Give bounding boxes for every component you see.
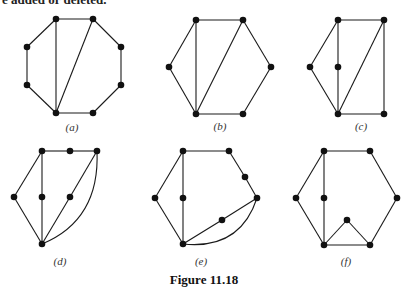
graph-edge (169, 20, 196, 67)
graph-vertex (53, 110, 60, 117)
graph-edge (27, 85, 56, 113)
graph-edge (196, 20, 243, 114)
graph-panel-c: (c) (307, 17, 388, 133)
graph-panels: (a)(b)(c)(d)(e)(f) (11, 16, 401, 268)
graph-vertex (193, 111, 200, 118)
graph-vertex (254, 195, 261, 202)
graph-vertex (118, 44, 125, 51)
graph-edge (370, 198, 397, 245)
graph-edge (347, 220, 370, 245)
panel-label-c: (c) (355, 120, 368, 133)
graph-vertex (118, 82, 125, 89)
graph-panel-d: (d) (11, 148, 101, 268)
graph-vertex (367, 148, 374, 155)
figure-caption: Figure 11.18 (170, 272, 239, 287)
graph-vertex (381, 17, 388, 24)
graph-vertex (90, 110, 97, 117)
graph-panel-f: (f) (293, 148, 401, 268)
graph-panel-e: (e) (152, 148, 261, 268)
panel-label-b: (b) (214, 120, 227, 133)
graph-vertex (11, 194, 18, 201)
graph-edge (183, 220, 222, 244)
graph-vertex (39, 148, 46, 155)
graph-edge (245, 177, 257, 198)
graph-vertex (242, 174, 249, 181)
graph-vertex (24, 82, 31, 89)
graph-edge (56, 19, 93, 113)
graph-vertex (219, 217, 226, 224)
graph-edge (155, 198, 183, 244)
graph-vertex (335, 111, 342, 118)
graph-vertex (240, 111, 247, 118)
graph-edge (229, 151, 245, 177)
graph-vertex (94, 148, 101, 155)
graph-edge (169, 67, 196, 114)
graph-edge (93, 19, 121, 47)
graph-vertex (180, 195, 187, 202)
graph-vertex (321, 195, 328, 202)
graph-vertex (166, 64, 173, 71)
graph-vertex (39, 194, 46, 201)
graph-edge (27, 19, 56, 47)
graph-vertex (335, 17, 342, 24)
graph-vertex (321, 242, 328, 249)
panel-label-f: (f) (341, 255, 352, 268)
graph-edge (296, 151, 324, 198)
graph-edge (93, 85, 121, 113)
graph-vertex (394, 195, 401, 202)
graph-edge (296, 198, 324, 245)
graph-edge (222, 198, 257, 220)
graph-edge (14, 197, 42, 244)
graph-edge (243, 20, 271, 67)
graph-panel-b: (b) (166, 17, 275, 133)
graph-vertex (268, 64, 275, 71)
graph-vertex (344, 217, 351, 224)
graph-vertex (67, 194, 74, 201)
graph-edge (310, 20, 338, 67)
panel-label-e: (e) (195, 255, 208, 268)
graph-edge (155, 151, 183, 198)
graph-vertex (240, 17, 247, 24)
panel-label-a: (a) (66, 121, 79, 134)
graph-vertex (180, 148, 187, 155)
graph-figure: (a)(b)(c)(d)(e)(f) Figure 11.18 (0, 0, 414, 291)
graph-vertex (180, 241, 187, 248)
graph-vertex (53, 16, 60, 23)
graph-vertex (193, 17, 200, 24)
graph-vertex (335, 64, 342, 71)
graph-panel-a: (a) (24, 16, 125, 134)
graph-vertex (152, 195, 159, 202)
graph-vertex (90, 16, 97, 23)
graph-edge (324, 220, 347, 245)
graph-vertex (367, 242, 374, 249)
graph-edge (338, 20, 384, 114)
graph-vertex (226, 148, 233, 155)
graph-vertex (293, 195, 300, 202)
graph-edge (14, 151, 42, 197)
graph-vertex (39, 241, 46, 248)
graph-vertex (381, 111, 388, 118)
graph-edge (310, 67, 338, 114)
graph-vertex (307, 64, 314, 71)
graph-edge (370, 151, 397, 198)
graph-vertex (321, 148, 328, 155)
graph-vertex (24, 44, 31, 51)
panel-label-d: (d) (54, 255, 67, 268)
graph-vertex (67, 148, 74, 155)
graph-edge (243, 67, 271, 114)
